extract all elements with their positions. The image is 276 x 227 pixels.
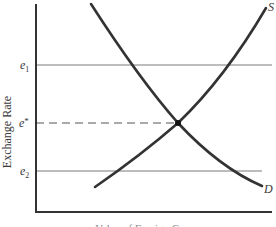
estar-label: e* (19, 116, 29, 130)
e2-label: e2 (20, 164, 29, 180)
supply-curve (95, 8, 266, 187)
supply-label: S (268, 0, 274, 14)
x-axis-title: Value of Foreign Currency (95, 222, 213, 227)
exchange-rate-chart: S D e1 e* e2 Exchange Rate Value of Fore… (0, 0, 276, 227)
equilibrium-point (175, 120, 181, 126)
demand-curve (91, 4, 262, 186)
e1-label: e1 (20, 58, 29, 74)
demand-label: D (263, 182, 273, 196)
y-axis-title: Exchange Rate (0, 96, 14, 168)
